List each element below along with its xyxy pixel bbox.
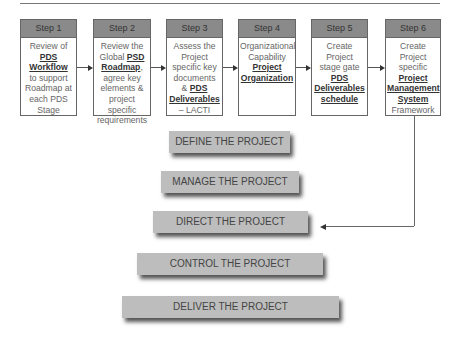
step-4-header: Step 4	[239, 20, 295, 38]
step-text-line: Review of	[22, 41, 75, 52]
bar-direct: DIRECT THE PROJECT	[153, 211, 308, 233]
step-6-header: Step 6	[386, 20, 440, 38]
step-3-box: Step 3 Assess theProjectspecific keydocu…	[166, 19, 223, 116]
feedback-line-vertical	[414, 116, 415, 226]
step-text-line: specific key	[168, 62, 221, 73]
step-text-line: Project	[240, 62, 294, 73]
step-text-line: PDS	[313, 73, 366, 84]
step-text-line: Framework	[387, 105, 439, 116]
step-text-line: Capability	[240, 52, 294, 63]
arrowhead-icon	[233, 65, 238, 71]
step-text-line: documents	[168, 73, 221, 84]
connector-2-3	[151, 67, 161, 68]
step-text-line: PDS	[22, 52, 75, 63]
step-text-line: – LACTI	[168, 105, 221, 116]
step-2-body: Review theGlobal PSDRoadmap,agree keyele…	[94, 38, 150, 126]
step-text-line: System	[387, 94, 439, 105]
step-1-body: Review ofPDSWorkflowto supportRoadmap at…	[21, 38, 76, 115]
step-4-body: OrganizationalCapabilityProjectOrganizat…	[239, 38, 295, 83]
step-text-line: & PDS	[168, 83, 221, 94]
arrowhead-icon	[161, 65, 166, 71]
bar-deliver: DELIVER THE PROJECT	[122, 296, 339, 318]
step-text-line: Global PSD	[95, 52, 149, 63]
step-5-header: Step 5	[312, 20, 367, 38]
step-text-line: schedule	[313, 94, 366, 105]
step-text-line: agree key	[95, 73, 149, 84]
step-text-line: Review the	[95, 41, 149, 52]
step-4-box: Step 4 OrganizationalCapabilityProjectOr…	[238, 19, 296, 116]
step-6-body: Create ProjectspecificProjectManagementS…	[386, 38, 440, 115]
step-text-line: specific	[387, 62, 439, 73]
connector-5-6	[368, 67, 380, 68]
bar-manage: MANAGE THE PROJECT	[161, 171, 299, 193]
step-1-box: Step 1 Review ofPDSWorkflowto supportRoa…	[20, 19, 77, 116]
arrowhead-icon	[380, 65, 385, 71]
step-2-box: Step 2 Review theGlobal PSDRoadmap,agree…	[93, 19, 151, 116]
step-text-line: Project	[168, 52, 221, 63]
step-text-line: Assess the	[168, 41, 221, 52]
step-text-line: Roadmap,	[95, 62, 149, 73]
arrowhead-icon	[88, 65, 93, 71]
step-1-header: Step 1	[21, 20, 76, 38]
step-text-line: Create Project	[387, 41, 439, 62]
step-text-line: Stage	[22, 105, 75, 116]
bar-control: CONTROL THE PROJECT	[137, 253, 323, 275]
bar-define: DEFINE THE PROJECT	[169, 131, 290, 153]
step-2-header: Step 2	[94, 20, 150, 38]
step-text-line: stage gate	[313, 62, 366, 73]
arrowhead-left-icon	[320, 224, 326, 230]
connector-3-4	[223, 67, 233, 68]
feedback-line-horizontal	[326, 226, 414, 227]
step-text-line: each PDS	[22, 94, 75, 105]
step-5-box: Step 5 Create Projectstage gatePDSDelive…	[311, 19, 368, 116]
step-text-line: Roadmap at	[22, 83, 75, 94]
step-text-line: Organization	[240, 73, 294, 84]
step-text-line: elements &	[95, 83, 149, 94]
step-text-line: Project	[387, 73, 439, 84]
step-6-box: Step 6 Create ProjectspecificProjectMana…	[385, 19, 441, 116]
step-text-line: requirements	[95, 115, 149, 126]
step-text-line: project specific	[95, 94, 149, 115]
step-text-line: Deliverables	[313, 83, 366, 94]
top-rule	[20, 3, 440, 4]
step-text-line: to support	[22, 73, 75, 84]
step-3-body: Assess theProjectspecific keydocuments& …	[167, 38, 222, 115]
step-3-header: Step 3	[167, 20, 222, 38]
step-text-line: Management	[387, 83, 439, 94]
step-text-line: Deliverables	[168, 94, 221, 105]
step-text-line: Create Project	[313, 41, 366, 62]
connector-1-2	[77, 67, 88, 68]
connector-4-5	[296, 67, 306, 68]
step-text-line: Organizational	[240, 41, 294, 52]
step-text-line: Workflow	[22, 62, 75, 73]
arrowhead-icon	[306, 65, 311, 71]
step-5-body: Create Projectstage gatePDSDeliverabless…	[312, 38, 367, 105]
